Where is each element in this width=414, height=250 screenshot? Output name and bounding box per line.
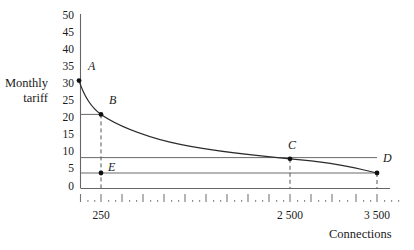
y-tick-label-10: 10 bbox=[52, 146, 74, 158]
point-label-a: A bbox=[88, 60, 95, 72]
point-label-b: B bbox=[109, 94, 116, 106]
y-tick-label-5: 5 bbox=[52, 163, 74, 175]
x-tick-label-2500: 2 500 bbox=[266, 210, 314, 222]
y-tick-label-40: 40 bbox=[52, 44, 74, 56]
y-axis-title-line1: Monthly bbox=[2, 76, 48, 90]
data-point-d bbox=[375, 171, 380, 176]
data-point-e bbox=[99, 171, 104, 176]
y-tick-label-30: 30 bbox=[52, 78, 74, 90]
x-ruler-major-ticks bbox=[81, 194, 378, 202]
x-axis-title: Connections bbox=[329, 228, 392, 241]
demand-curve bbox=[79, 81, 377, 173]
y-tick-label-25: 25 bbox=[52, 95, 74, 107]
point-label-d: D bbox=[383, 152, 392, 164]
y-tick-label-15: 15 bbox=[52, 129, 74, 141]
point-label-e: E bbox=[108, 161, 115, 173]
data-point-a bbox=[77, 78, 82, 83]
y-tick-label-20: 20 bbox=[52, 112, 74, 124]
x-ruler-minor-dots bbox=[87, 200, 399, 202]
data-point-b bbox=[99, 112, 104, 117]
y-tick-label-0: 0 bbox=[52, 181, 74, 193]
point-label-c: C bbox=[288, 139, 296, 151]
x-tick-label-250: 250 bbox=[81, 210, 121, 222]
chart-figure: 50 45 40 35 30 25 20 15 10 5 0 Monthly t… bbox=[0, 0, 414, 250]
y-tick-label-45: 45 bbox=[52, 27, 74, 39]
x-tick-label-3500: 3 500 bbox=[353, 210, 401, 222]
y-tick-label-35: 35 bbox=[52, 61, 74, 73]
data-point-c bbox=[288, 156, 293, 161]
y-tick-label-50: 50 bbox=[52, 10, 74, 22]
y-axis-title-line2: tariff bbox=[2, 91, 48, 105]
